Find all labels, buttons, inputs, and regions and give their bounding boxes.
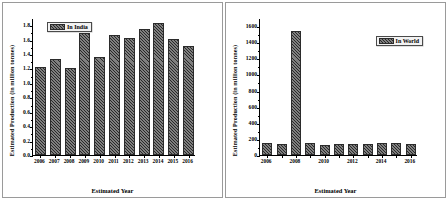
bar xyxy=(183,46,194,155)
y-tick-mark-minor xyxy=(31,120,33,121)
x-axis-tick-labels-world: 200620082010201220142016 xyxy=(226,159,445,169)
x-tick-label: 2015 xyxy=(167,159,178,164)
y-axis-tick-labels-world: 02004006008001000120014001600 xyxy=(237,19,257,156)
bar xyxy=(320,145,330,155)
y-tick-label: 1.8 xyxy=(23,23,30,29)
y-tick-label: 200 xyxy=(249,137,257,143)
y-tick-mark-minor xyxy=(258,83,260,84)
bar xyxy=(277,144,287,155)
y-tick-mark-minor xyxy=(258,35,260,36)
y-tick-mark xyxy=(30,55,33,56)
y-tick-mark xyxy=(30,41,33,42)
y-axis-tick-labels-india: 0.00.20.40.60.81.01.21.41.61.8 xyxy=(10,19,30,156)
x-axis-tick-labels-india: 2006200720082009201020112012201320142015… xyxy=(3,159,222,169)
x-tick-label: 2011 xyxy=(108,159,118,164)
x-tick-label: 2016 xyxy=(182,159,193,164)
y-tick-mark-minor xyxy=(258,51,260,52)
bar xyxy=(79,33,90,155)
bar xyxy=(291,31,301,155)
axes-frame-india xyxy=(32,19,195,156)
x-tick-label: 2010 xyxy=(93,159,104,164)
y-tick-mark-minor xyxy=(31,134,33,135)
y-tick-mark xyxy=(30,84,33,85)
y-tick-label: 0.8 xyxy=(23,96,30,102)
figure-container: Estimated Production (in million tonnes)… xyxy=(0,0,448,200)
x-tick-label: 2012 xyxy=(347,159,358,164)
y-tick-mark-minor xyxy=(258,148,260,149)
bar xyxy=(348,144,358,155)
y-tick-mark-minor xyxy=(258,132,260,133)
y-tick-mark-minor xyxy=(31,62,33,63)
y-tick-mark xyxy=(257,108,260,109)
x-tick-label: 2016 xyxy=(404,159,415,164)
legend-label-world: In World xyxy=(396,38,419,44)
y-tick-mark xyxy=(30,156,33,157)
y-tick-label: 0.2 xyxy=(23,139,30,145)
bar xyxy=(305,143,315,155)
x-tick-label: 2008 xyxy=(290,159,301,164)
bar xyxy=(35,67,46,155)
y-tick-mark xyxy=(30,142,33,143)
y-tick-mark-minor xyxy=(258,67,260,68)
y-tick-label: 1.6 xyxy=(23,38,30,44)
x-tick-label: 2010 xyxy=(318,159,329,164)
legend-swatch-icon-india xyxy=(50,24,65,30)
y-tick-mark-minor xyxy=(31,149,33,150)
chart-panel-world: Estimated Production (in million tonnes)… xyxy=(225,2,446,198)
x-tick-label: 2012 xyxy=(123,159,134,164)
x-tick-label: 2008 xyxy=(64,159,75,164)
legend-world: In World xyxy=(376,36,423,46)
legend-swatch-icon-world xyxy=(379,38,394,44)
chart-panel-india: Estimated Production (in million tonnes)… xyxy=(2,2,223,198)
y-tick-mark-minor xyxy=(31,106,33,107)
bar xyxy=(50,59,61,155)
y-tick-label: 0.6 xyxy=(23,110,30,116)
bar xyxy=(334,144,344,155)
y-tick-label: 1.2 xyxy=(23,67,30,73)
y-tick-mark xyxy=(30,26,33,27)
x-axis-title-world: Estimated Year xyxy=(226,187,445,194)
bar xyxy=(363,144,373,155)
y-tick-label: 600 xyxy=(249,105,257,111)
y-tick-label: 400 xyxy=(249,121,257,127)
y-tick-mark-minor xyxy=(258,100,260,101)
plot-area-world: Estimated Production (in million tonnes)… xyxy=(226,3,445,197)
bar xyxy=(168,39,179,155)
bar xyxy=(139,29,150,155)
y-tick-mark-minor xyxy=(31,48,33,49)
y-tick-mark xyxy=(30,127,33,128)
y-tick-mark xyxy=(257,43,260,44)
bar xyxy=(153,23,164,155)
bar xyxy=(391,143,401,155)
bar xyxy=(377,143,387,155)
y-tick-mark xyxy=(257,124,260,125)
legend-label-india: In India xyxy=(67,24,88,30)
x-tick-label: 2009 xyxy=(78,159,89,164)
bar-series-india xyxy=(33,19,195,155)
y-tick-mark xyxy=(257,59,260,60)
y-tick-label: 1400 xyxy=(246,40,257,46)
y-tick-mark-minor xyxy=(31,91,33,92)
x-tick-label: 2007 xyxy=(49,159,60,164)
x-tick-label: 2014 xyxy=(153,159,164,164)
y-tick-label: 800 xyxy=(249,89,257,95)
y-tick-mark-minor xyxy=(31,77,33,78)
x-tick-label: 2014 xyxy=(376,159,387,164)
y-tick-mark xyxy=(257,27,260,28)
y-tick-mark xyxy=(30,98,33,99)
bar xyxy=(94,57,105,155)
y-tick-mark xyxy=(30,69,33,70)
y-tick-label: 1600 xyxy=(246,24,257,30)
bar xyxy=(65,68,76,155)
x-tick-label: 2013 xyxy=(138,159,149,164)
x-tick-label: 2006 xyxy=(34,159,45,164)
y-tick-label: 1000 xyxy=(246,73,257,79)
legend-india: In India xyxy=(47,22,92,32)
y-tick-mark xyxy=(257,92,260,93)
bar xyxy=(109,35,120,155)
plot-area-india: Estimated Production (in million tonnes)… xyxy=(3,3,222,197)
bar xyxy=(262,143,272,155)
y-tick-mark xyxy=(257,156,260,157)
y-tick-label: 1200 xyxy=(246,56,257,62)
y-tick-mark xyxy=(257,140,260,141)
